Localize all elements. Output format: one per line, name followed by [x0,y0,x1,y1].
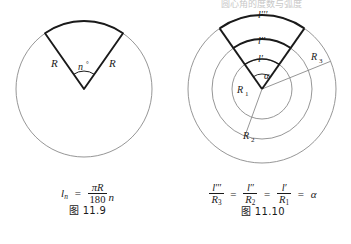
central-angle-label: α [264,70,270,81]
fraction-l1-r1: l′ R1 [277,182,291,208]
equals-sign-1: = [226,189,240,200]
denominator-r3-subscript: 3 [218,199,222,207]
trailing-factor: n [107,192,114,203]
radius-label-r1: R [236,84,243,95]
formula-result: α [311,188,317,200]
radius-label-r1-subscript: 1 [245,90,249,98]
arc-label-inner: l′ [258,53,264,64]
radius-label-r3-subscript: 3 [319,57,323,65]
denominator-r1-subscript: 1 [285,199,289,207]
formula-lhs-subscript: n [64,192,68,201]
figure-page: 圆心角的度数与弧度 R R n ° ln = πR 180 [0,0,351,244]
formula-11-9: ln = πR 180 n [0,183,175,206]
radius-label-r2-subscript: 2 [251,136,255,144]
sector-leg-left [220,28,262,89]
arc-label-outer: l‪′′′ [258,9,268,20]
fraction-l3-r3: l′′′ R3 [209,182,223,208]
radius-label-r3: R [310,51,317,62]
equals-sign-2: = [260,189,274,200]
caption-11-9: 图 11.9 [0,206,175,216]
equals-sign-3: = [294,189,308,200]
fraction-denominator: 180 [88,194,108,205]
numerator-l2: l′′ [243,182,257,194]
fraction-numerator: πR [88,182,108,194]
arc-label-middle: l′′ [258,35,266,46]
caption-11-10: 图 11.10 [175,207,351,217]
fraction-l2-r2: l′′ R2 [243,182,257,208]
equals-sign: = [71,188,85,199]
radius-label-right: R [108,57,116,69]
central-angle-label: n [78,61,83,72]
figure-11-9-drawing: R R n ° [0,0,175,180]
radius-label-r2: R [242,130,249,141]
sector-outline [45,21,123,89]
degree-sign-icon: ° [86,60,89,68]
figure-11-10: l‪′′′ l′′ l′ α R 1 R 2 R 3 l′′′ R3 = l′′… [175,0,351,244]
fraction: πR 180 [88,182,108,205]
formula-11-10: l′′′ R3 = l′′ R2 = l′ R1 = α [175,183,351,209]
numerator-l1: l′ [277,182,291,194]
figure-11-9: R R n ° ln = πR 180 n 图 11.9 [0,0,175,244]
denominator-r3: R3 [209,194,223,208]
numerator-l3: l′′′ [209,182,223,194]
central-angle-arc [74,71,95,74]
figure-11-10-drawing: l‪′′′ l′′ l′ α R 1 R 2 R 3 [175,0,351,180]
radius-label-left: R [50,57,58,69]
